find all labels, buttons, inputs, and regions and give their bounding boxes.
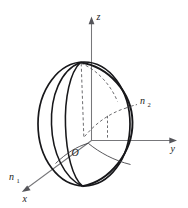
dashed-polar-drop bbox=[81, 63, 84, 136]
inner-meridian bbox=[65, 63, 82, 187]
normal-1-subscript-label: 1 bbox=[17, 177, 20, 184]
coordinate-sphere-figure: z y x O n 1 n 2 bbox=[0, 0, 188, 208]
normal-1-label: n 1 bbox=[9, 171, 20, 184]
z-axis-arrowhead bbox=[89, 17, 95, 25]
x-axis-label: x bbox=[22, 193, 28, 204]
z-axis-label: z bbox=[96, 11, 101, 22]
origin-label: O bbox=[72, 147, 79, 158]
disc-rim-left bbox=[51, 63, 82, 187]
y-axis bbox=[92, 138, 178, 144]
x-axis-line bbox=[27, 141, 92, 189]
label-group: z y x O n 1 n 2 bbox=[9, 11, 176, 205]
normal-2-label: n 2 bbox=[140, 95, 151, 108]
axis-group bbox=[22, 17, 177, 193]
normal-2-base-label: n bbox=[140, 95, 145, 106]
sphere-group bbox=[38, 62, 133, 186]
normal-1-base-label: n bbox=[9, 171, 14, 182]
z-axis bbox=[89, 17, 95, 141]
figure-canvas: z y x O n 1 n 2 bbox=[0, 0, 188, 208]
normal-2-subscript-label: 2 bbox=[148, 101, 151, 108]
y-axis-label: y bbox=[170, 143, 176, 154]
disc-rim-right bbox=[81, 63, 133, 187]
